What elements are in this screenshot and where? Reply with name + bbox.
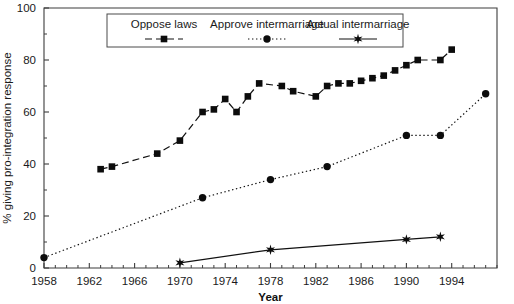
series-1 <box>40 90 489 261</box>
x-axis-tick-labels: 1958196219661970197419781982198619901994 <box>31 275 465 287</box>
data-point-marker <box>154 150 161 157</box>
data-point-marker <box>403 62 410 69</box>
data-point-marker <box>222 96 229 103</box>
data-point-marker <box>267 176 274 183</box>
y-tick-label: 100 <box>17 2 36 14</box>
series-line <box>180 237 440 263</box>
y-tick-label: 60 <box>23 106 36 118</box>
data-point-marker <box>335 80 342 87</box>
data-point-marker <box>482 90 489 97</box>
chart-container: 020406080100 195819621966197019741978198… <box>0 0 514 304</box>
data-point-marker <box>199 109 206 116</box>
data-point-marker <box>256 80 263 87</box>
data-point-marker <box>290 88 297 95</box>
data-point-marker <box>358 78 365 85</box>
data-point-marker <box>245 93 252 100</box>
data-point-marker <box>346 80 353 87</box>
series-line <box>44 94 486 258</box>
series-2 <box>175 232 444 268</box>
data-point-marker <box>324 83 331 90</box>
data-point-marker <box>199 194 206 201</box>
data-point-marker <box>323 163 330 170</box>
data-point-marker <box>211 106 218 113</box>
x-tick-label: 1974 <box>212 275 238 287</box>
y-tick-label: 80 <box>23 54 36 66</box>
x-tick-label: 1958 <box>31 275 57 287</box>
x-tick-label: 1962 <box>77 275 103 287</box>
data-point-marker <box>177 137 184 144</box>
x-axis-title: Year <box>258 291 283 303</box>
data-point-marker <box>233 109 240 116</box>
data-point-marker <box>380 72 387 79</box>
data-point-marker <box>313 93 320 100</box>
data-point-marker <box>392 67 399 74</box>
data-point-marker <box>97 166 104 173</box>
data-point-marker <box>369 75 376 82</box>
legend-label-0: Oppose laws <box>131 18 198 30</box>
x-tick-label: 1986 <box>348 275 374 287</box>
chart-svg: 020406080100 195819621966197019741978198… <box>0 0 514 304</box>
data-point-marker <box>279 83 286 90</box>
x-tick-label: 1982 <box>303 275 329 287</box>
data-point-marker <box>109 163 116 170</box>
data-point-marker <box>437 57 444 64</box>
y-tick-label: 20 <box>23 210 36 222</box>
data-point-marker <box>161 36 168 43</box>
series-layer <box>40 46 489 268</box>
y-axis-tick-labels: 020406080100 <box>17 2 36 274</box>
y-axis-title: % giving pro-integration response <box>1 52 13 223</box>
data-point-marker <box>448 46 455 53</box>
data-point-marker <box>414 57 421 64</box>
x-tick-label: 1990 <box>394 275 420 287</box>
x-tick-label: 1994 <box>439 275 465 287</box>
series-0 <box>97 46 455 172</box>
chart-legend: Oppose lawsApprove intermarriageActual i… <box>107 14 409 47</box>
y-tick-label: 0 <box>30 262 36 274</box>
x-tick-label: 1978 <box>258 275 284 287</box>
x-tick-label: 1970 <box>167 275 193 287</box>
data-point-marker <box>437 132 444 139</box>
data-point-marker <box>40 254 47 261</box>
data-point-marker <box>403 132 410 139</box>
series-line <box>101 50 452 170</box>
y-tick-label: 40 <box>23 158 36 170</box>
x-tick-label: 1966 <box>122 275 148 287</box>
legend-label-2: Actual intermarriage <box>307 18 410 30</box>
data-point-marker <box>263 35 270 42</box>
